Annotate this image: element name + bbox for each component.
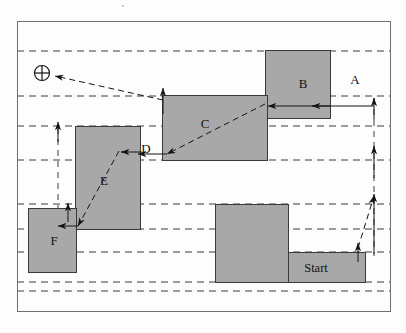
blocks-layer [29, 51, 366, 283]
block-c [163, 96, 268, 161]
packing-diagram-figure: BCEFStartAD [0, 0, 406, 333]
block-label-b: B [299, 77, 308, 90]
block-label-e: E [100, 174, 108, 187]
region-label-d: D [141, 142, 150, 155]
block-label-c: C [201, 117, 210, 130]
block-label-f: F [50, 234, 57, 247]
block-label-start: Start [304, 262, 328, 275]
target-marker-layer [35, 66, 50, 81]
diagram-canvas [0, 0, 406, 333]
block-g [216, 205, 289, 283]
region-label-a: A [350, 73, 359, 86]
